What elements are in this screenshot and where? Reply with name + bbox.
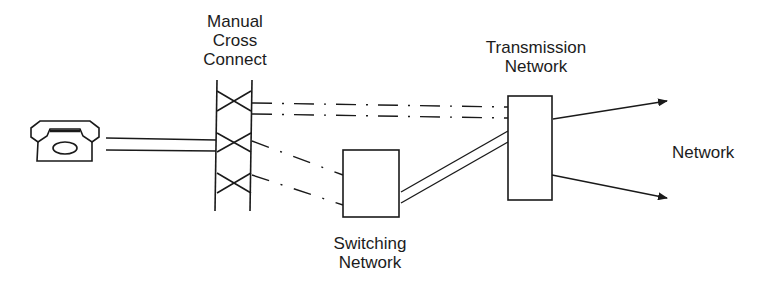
network-label: Network bbox=[672, 143, 762, 162]
outgoing-network-arrows bbox=[552, 101, 667, 198]
cross-connect-label-line-1: Manual bbox=[185, 12, 285, 31]
switching-network-label: Switching Network bbox=[315, 234, 425, 272]
subscriber-line bbox=[106, 138, 216, 151]
cross-connect-label-line-2: Cross bbox=[185, 31, 285, 50]
switching-network-box bbox=[343, 150, 399, 217]
switching-to-transmission-trunk bbox=[401, 131, 508, 203]
transmission-network-label-line-1: Transmission bbox=[466, 38, 606, 57]
telephone-icon bbox=[31, 121, 99, 161]
cross-connect-label: Manual Cross Connect bbox=[185, 12, 285, 69]
cross-connect-label-line-3: Connect bbox=[185, 50, 285, 69]
transmission-network-label: Transmission Network bbox=[466, 38, 606, 76]
transmission-network-box bbox=[508, 96, 552, 200]
switching-network-label-line-1: Switching bbox=[315, 234, 425, 253]
transmission-network-label-line-2: Network bbox=[466, 57, 606, 76]
cross-connect-to-transmission-links bbox=[252, 103, 508, 118]
cross-connect-frame bbox=[215, 80, 252, 211]
switching-network-label-line-2: Network bbox=[315, 253, 425, 272]
cross-connect-to-switching-links bbox=[252, 141, 343, 205]
